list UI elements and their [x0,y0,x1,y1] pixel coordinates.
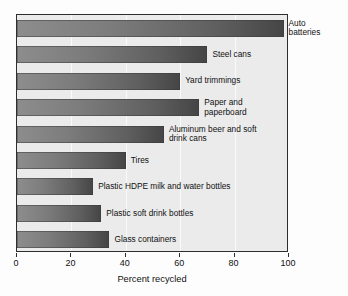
x-axis-tick [16,253,17,257]
bar [17,99,199,116]
bar-row: Glass containers [17,231,176,248]
bar [17,231,109,248]
bar-label: Glass containers [114,235,176,244]
bar-row: Auto batteries [17,20,320,37]
bar-row: Yard trimmings [17,73,240,90]
x-axis-tick [288,253,289,257]
bar [17,178,93,195]
bar-label: Steel cans [212,50,251,59]
bar-row: Aluminum beer and soft drink cans [17,126,257,143]
x-axis-tick-label: 40 [120,258,130,268]
bar-label: Aluminum beer and soft drink cans [169,125,257,144]
bar-row: Paper and paperboard [17,99,247,116]
bar-row: Plastic HDPE milk and water bottles [17,178,231,195]
bar-label: Paper and paperboard [204,98,246,117]
x-axis-tick-label: 0 [13,258,18,268]
x-axis-tick [125,253,126,257]
bar [17,152,126,169]
x-axis-tick-label: 20 [65,258,75,268]
x-axis-title: Percent recycled [16,274,288,284]
bar-row: Steel cans [17,46,251,63]
bar-label: Yard trimmings [185,76,240,85]
bar [17,126,164,143]
bar [17,46,207,63]
bar-row: Plastic soft drink bottles [17,205,193,222]
x-axis-tick-label: 60 [174,258,184,268]
x-axis-tick-label: 80 [229,258,239,268]
bar [17,73,180,90]
bar-row: Tires [17,152,149,169]
bar-label: Plastic HDPE milk and water bottles [98,182,230,191]
bar-label: Plastic soft drink bottles [106,209,193,218]
bar-chart: Auto batteriesSteel cansYard trimmingsPa… [0,0,348,296]
bar-label: Tires [131,156,149,165]
x-axis-tick [179,253,180,257]
x-axis-tick [234,253,235,257]
x-axis-tick-label: 100 [280,258,295,268]
x-axis-tick [70,253,71,257]
bar [17,20,284,37]
plot-area: Auto batteriesSteel cansYard trimmingsPa… [16,14,288,252]
bar [17,205,101,222]
bar-label: Auto batteries [289,19,321,38]
